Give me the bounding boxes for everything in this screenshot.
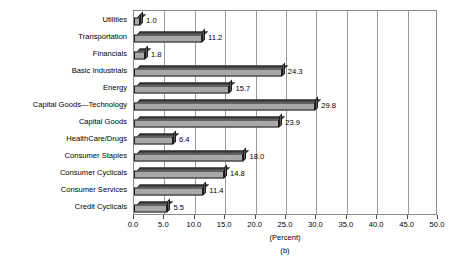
bar-front-face (134, 120, 279, 128)
gridline (256, 11, 257, 214)
x-tick-label: 45.0 (399, 220, 414, 229)
bar-top-face (137, 31, 208, 34)
bar-side-face (224, 165, 227, 179)
bar-chart-figure: UtilitiesTransportationFinancialsBasic I… (0, 0, 454, 263)
bar-top-face (137, 151, 249, 154)
bar-value-label: 15.7 (235, 83, 250, 92)
bar-front-face (134, 68, 282, 76)
bar (134, 31, 205, 42)
bar (134, 185, 206, 196)
x-tick-mark (194, 215, 195, 219)
x-tick-label: 10.0 (186, 220, 201, 229)
bar (134, 82, 232, 93)
gridline (316, 11, 317, 214)
category-label: Capital Goods—Technology (33, 99, 127, 108)
x-tick-label: 15.0 (217, 220, 232, 229)
x-tick-mark (315, 215, 316, 219)
bar-side-face (167, 199, 170, 213)
bar-side-face (202, 28, 205, 42)
bar-front-face (134, 51, 145, 59)
x-tick-label: 25.0 (278, 220, 293, 229)
bar-side-face (145, 45, 148, 59)
category-label: Credit Cyclicals (75, 202, 127, 211)
bar-side-face (140, 11, 143, 25)
bar (134, 14, 143, 25)
bar-value-label: 29.8 (321, 100, 336, 109)
x-tick-label: 0.0 (128, 220, 139, 229)
bar-side-face (282, 62, 285, 76)
bar-value-label: 14.8 (230, 169, 245, 178)
x-tick-mark (376, 215, 377, 219)
gridline (286, 11, 287, 214)
category-axis-labels: UtilitiesTransportationFinancialsBasic I… (0, 10, 131, 215)
bar-front-face (134, 205, 167, 213)
gridline (408, 11, 409, 214)
bar-front-face (134, 188, 203, 196)
x-tick-mark (285, 215, 286, 219)
category-label: Financials (93, 48, 127, 57)
gridline (347, 11, 348, 214)
bar-side-face (279, 114, 282, 128)
figure-caption: (b) (133, 246, 437, 255)
bar (134, 202, 170, 213)
category-label: Consumer Staples (65, 151, 127, 160)
bar-top-face (137, 168, 230, 171)
bar-side-face (203, 182, 206, 196)
category-label: Consumer Services (61, 185, 127, 194)
x-tick-mark (407, 215, 408, 219)
bar-value-label: 11.2 (208, 32, 222, 41)
bar-value-label: 11.4 (209, 186, 223, 195)
bar-side-face (229, 79, 232, 93)
x-tick-label: 50.0 (430, 220, 445, 229)
plot-area: 1.011.21.824.315.729.823.96.418.014.811.… (133, 10, 437, 215)
category-label: HealthCare/Drugs (66, 134, 127, 143)
bar-top-face (137, 65, 288, 68)
bar-top-face (137, 117, 285, 120)
bar-front-face (134, 154, 243, 162)
bar-top-face (137, 99, 321, 102)
x-tick-mark (163, 215, 164, 219)
bar-value-label: 5.5 (173, 203, 184, 212)
bar (134, 151, 246, 162)
bar (134, 99, 318, 110)
x-tick-label: 40.0 (369, 220, 384, 229)
bar-front-face (134, 34, 202, 42)
bar-side-face (173, 131, 176, 145)
bar (134, 48, 148, 59)
bar-top-face (137, 48, 151, 51)
category-label: Utilities (103, 14, 127, 23)
bar-front-face (134, 102, 315, 110)
bar-top-face (137, 185, 209, 188)
x-tick-mark (437, 215, 438, 219)
bar-value-label: 18.0 (249, 152, 264, 161)
bar (134, 65, 285, 76)
bar-value-label: 1.0 (146, 15, 157, 24)
x-tick-label: 35.0 (338, 220, 353, 229)
bar-front-face (134, 137, 173, 145)
x-tick-mark (255, 215, 256, 219)
x-axis: 0.05.010.015.020.025.030.035.040.045.050… (133, 215, 437, 235)
bar (134, 117, 282, 128)
bar-front-face (134, 171, 224, 179)
bar-value-label: 24.3 (288, 66, 303, 75)
x-tick-label: 5.0 (158, 220, 169, 229)
bar-value-label: 1.8 (151, 49, 162, 58)
category-label: Energy (103, 82, 127, 91)
category-label: Transportation (78, 31, 127, 40)
x-tick-mark (346, 215, 347, 219)
x-tick-label: 30.0 (308, 220, 323, 229)
bar-top-face (137, 82, 235, 85)
bar-side-face (243, 148, 246, 162)
bar-front-face (134, 85, 229, 93)
x-tick-mark (133, 215, 134, 219)
bar (134, 134, 176, 145)
gridline (377, 11, 378, 214)
x-tick-mark (224, 215, 225, 219)
bar-side-face (315, 96, 318, 110)
bar-value-label: 6.4 (179, 135, 190, 144)
bar (134, 168, 227, 179)
category-label: Basic Industrials (72, 65, 127, 74)
bar-value-label: 23.9 (285, 118, 300, 127)
gridline (225, 11, 226, 214)
x-tick-label: 20.0 (247, 220, 262, 229)
